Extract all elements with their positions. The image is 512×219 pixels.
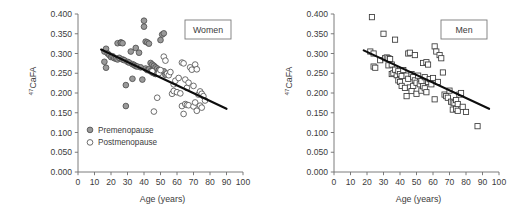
data-point bbox=[194, 66, 200, 72]
data-point bbox=[102, 59, 108, 65]
x-axis-tick-label: 30 bbox=[123, 177, 133, 187]
panel-label-text: Men bbox=[455, 25, 472, 35]
panel-women: 0.0000.0500.1000.1500.2000.2500.3000.350… bbox=[0, 0, 256, 219]
data-point bbox=[191, 83, 197, 89]
y-axis-tick-label: 0.100 bbox=[50, 128, 72, 138]
x-axis-tick-label: 90 bbox=[222, 177, 232, 187]
data-point bbox=[373, 65, 378, 70]
data-point bbox=[440, 70, 445, 75]
data-point bbox=[140, 77, 146, 83]
data-point bbox=[141, 18, 147, 24]
x-axis-tick-label: 90 bbox=[478, 177, 488, 187]
data-point bbox=[120, 40, 126, 46]
data-point bbox=[103, 65, 109, 71]
legend-marker bbox=[87, 127, 93, 133]
data-point bbox=[151, 109, 157, 115]
data-point bbox=[163, 58, 169, 64]
data-point bbox=[181, 111, 187, 117]
x-axis-title: Age (years) bbox=[396, 194, 442, 204]
x-axis-tick-label: 70 bbox=[445, 177, 455, 187]
x-axis-tick-label: 0 bbox=[332, 177, 337, 187]
data-point bbox=[168, 69, 174, 75]
data-point bbox=[414, 91, 419, 96]
y-axis-tick-label: 0.050 bbox=[50, 147, 72, 157]
x-axis-tick-label: 50 bbox=[156, 177, 166, 187]
data-point bbox=[475, 124, 480, 129]
data-point bbox=[176, 75, 182, 81]
y-axis-tick-label: 0.050 bbox=[306, 147, 328, 157]
x-axis-tick-label: 80 bbox=[205, 177, 215, 187]
y-axis-tick-label: 0.200 bbox=[50, 88, 72, 98]
data-point bbox=[146, 41, 152, 47]
data-point bbox=[158, 67, 164, 73]
data-point bbox=[136, 50, 142, 56]
data-point bbox=[407, 50, 412, 55]
data-point bbox=[181, 61, 187, 67]
data-point bbox=[439, 56, 444, 61]
x-axis-tick-label: 60 bbox=[172, 177, 182, 187]
figure-container: 0.0000.0500.1000.1500.2000.2500.3000.350… bbox=[0, 0, 512, 219]
x-axis-tick-label: 100 bbox=[236, 177, 251, 187]
x-axis-tick-label: 20 bbox=[362, 177, 372, 187]
data-point bbox=[425, 62, 430, 67]
x-axis-tick-label: 80 bbox=[461, 177, 471, 187]
data-point bbox=[154, 95, 160, 101]
x-axis-tick-label: 40 bbox=[395, 177, 405, 187]
y-axis-title-base: CaFA bbox=[284, 66, 294, 88]
data-point bbox=[369, 15, 374, 20]
data-point bbox=[412, 52, 417, 57]
x-axis-tick-label: 10 bbox=[346, 177, 356, 187]
x-axis-tick-label: 100 bbox=[492, 177, 507, 187]
data-point bbox=[455, 101, 460, 106]
data-point bbox=[455, 108, 460, 113]
data-point bbox=[130, 76, 136, 82]
data-point bbox=[199, 105, 205, 111]
legend-marker bbox=[87, 140, 93, 146]
y-axis-title: 47CaFA bbox=[283, 66, 294, 95]
y-axis-tick-label: 0.350 bbox=[50, 29, 72, 39]
data-point bbox=[128, 49, 134, 55]
data-point bbox=[392, 37, 397, 42]
data-point bbox=[409, 88, 414, 93]
y-axis-tick-label: 0.000 bbox=[50, 167, 72, 177]
data-point bbox=[463, 109, 468, 114]
data-point bbox=[399, 73, 404, 78]
y-axis-tick-label: 0.150 bbox=[50, 108, 72, 118]
y-axis-title: 47CaFA bbox=[27, 66, 38, 95]
data-point bbox=[404, 94, 409, 99]
legend-label-text: Postmenopause bbox=[98, 138, 158, 147]
data-point bbox=[402, 85, 407, 90]
data-point bbox=[158, 37, 164, 43]
y-axis-tick-label: 0.400 bbox=[306, 9, 328, 19]
data-point bbox=[460, 104, 465, 109]
data-point bbox=[177, 91, 183, 97]
y-axis-tick-label: 0.000 bbox=[306, 167, 328, 177]
data-point bbox=[430, 75, 435, 80]
y-axis-tick-label: 0.200 bbox=[306, 88, 328, 98]
x-axis-tick-label: 40 bbox=[139, 177, 149, 187]
y-axis-tick-label: 0.250 bbox=[306, 68, 328, 78]
x-axis-title: Age (years) bbox=[140, 194, 186, 204]
x-axis-tick-label: 10 bbox=[90, 177, 100, 187]
regression-trendline bbox=[364, 50, 489, 108]
x-axis-tick-label: 20 bbox=[106, 177, 116, 187]
y-axis-tick-label: 0.250 bbox=[50, 68, 72, 78]
data-point bbox=[432, 97, 437, 102]
y-axis-tick-label: 0.350 bbox=[306, 29, 328, 39]
data-point bbox=[161, 31, 167, 37]
y-axis-tick-label: 0.300 bbox=[50, 49, 72, 59]
women-chart-svg: 0.0000.0500.1000.1500.2000.2500.3000.350… bbox=[0, 0, 256, 219]
x-axis-tick-label: 0 bbox=[76, 177, 81, 187]
y-axis-title-base: CaFA bbox=[28, 66, 38, 88]
x-axis-tick-label: 60 bbox=[428, 177, 438, 187]
data-point bbox=[432, 44, 437, 49]
y-axis-tick-label: 0.100 bbox=[306, 128, 328, 138]
x-axis-tick-label: 70 bbox=[189, 177, 199, 187]
panel-men: 0.0000.0500.1000.1500.2000.2500.3000.350… bbox=[256, 0, 512, 219]
data-point bbox=[141, 24, 147, 30]
data-point bbox=[424, 90, 429, 95]
data-point bbox=[123, 82, 129, 88]
legend-label-text: Premenopause bbox=[98, 126, 154, 135]
x-axis-tick-label: 30 bbox=[379, 177, 389, 187]
panel-label-text: Women bbox=[193, 25, 223, 35]
